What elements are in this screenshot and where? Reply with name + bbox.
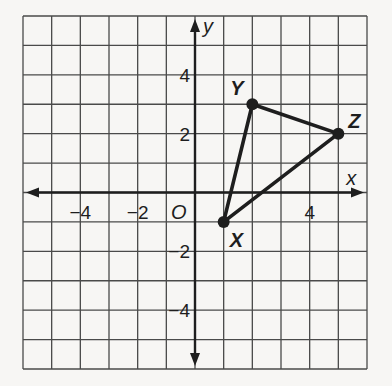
vertex-point-x — [218, 216, 230, 228]
x-tick-label: −2 — [127, 202, 149, 223]
origin-label: O — [171, 201, 187, 223]
vertex-label-y: Y — [230, 77, 245, 99]
x-axis-arrow-left-icon — [26, 188, 39, 198]
vertex-label-x: X — [229, 229, 245, 251]
x-axis-label: x — [345, 167, 357, 189]
x-tick-label: −4 — [69, 202, 91, 223]
vertex-point-y — [246, 98, 258, 110]
vertex-point-z — [332, 128, 344, 140]
x-axis-arrow-right-icon — [351, 188, 364, 198]
vertex-label-z: Z — [347, 110, 361, 132]
coordinate-plane-figure: x y O −4 −2 4 4 2 −2 −4 X Y Z — [0, 0, 392, 386]
y-tick-label: −2 — [168, 241, 190, 262]
y-tick-label: 2 — [179, 124, 190, 145]
y-axis-arrow-up-icon — [190, 19, 200, 32]
y-axis-arrow-down-icon — [190, 353, 200, 366]
y-tick-label: 4 — [179, 65, 190, 86]
y-tick-label: −4 — [168, 300, 190, 321]
x-tick-label: 4 — [304, 202, 315, 223]
axes — [26, 19, 364, 366]
y-axis-label: y — [201, 15, 214, 37]
